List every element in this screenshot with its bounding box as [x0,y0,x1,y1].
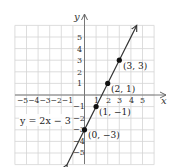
x-tick-1: 1 [94,96,99,105]
y-tick-neg-2: −2 [73,114,85,123]
y-tick-5: 5 [77,33,82,42]
x-axis-label: x [161,95,167,106]
x-tick-2: 2 [106,96,111,105]
point-3-3 [117,58,122,63]
y-tick-neg-1: −1 [73,102,85,111]
point-2-1 [105,81,110,86]
point-label-2-1: (2, 1) [111,84,135,94]
point-1-neg1 [94,104,99,109]
y-tick-4: 4 [77,45,82,54]
y-tick-2: 2 [77,68,82,77]
y-axis-label: y [73,11,80,22]
y-tick-3: 3 [77,56,82,65]
point-label-3-3: (3, 3) [123,61,147,71]
equation-label: y = 2x − 3 [19,115,71,126]
coordinate-plane-chart: x y −5−4−3−2−1 1 2 3 4 5 5 4 3 2 1 −1 −2… [0,0,178,167]
x-tick-4: 4 [129,96,134,105]
y-tick-1: 1 [77,79,82,88]
x-tick-labels-negative: −5−4−3−2−1 [17,96,73,105]
x-tick-3: 3 [117,96,122,105]
point-label-0-neg3: (0, −3) [88,130,120,140]
point-label-1-neg1: (1, −1) [99,107,131,117]
x-tick-5: 5 [140,96,145,105]
point-0-neg3 [82,127,87,132]
